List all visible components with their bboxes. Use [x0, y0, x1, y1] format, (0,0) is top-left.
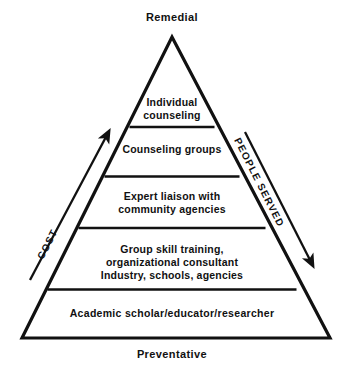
tier-label-line: Individual	[0, 96, 344, 109]
tier-label-group-skill-training: Group skill training, organizational con…	[0, 243, 344, 282]
tier-label-individual-counseling: Individual counseling	[0, 96, 344, 122]
tier-label-expert-liaison: Expert liaison with community agencies	[0, 190, 344, 216]
pyramid-diagram: Remedial Preventative Individual counsel…	[0, 0, 344, 372]
tier-label-academic-scholar: Academic scholar/educator/researcher	[0, 307, 344, 320]
tier-label-line: organizational consultant	[0, 256, 344, 269]
pyramid-outline	[22, 37, 330, 338]
tier-label-line: Academic scholar/educator/researcher	[0, 307, 344, 320]
tier-label-line: Expert liaison with	[0, 190, 344, 203]
tier-label-line: counseling	[0, 109, 344, 122]
base-label-preventative: Preventative	[0, 348, 344, 360]
apex-label-remedial: Remedial	[0, 11, 344, 23]
tier-label-line: Counseling groups	[0, 143, 344, 156]
tier-label-counseling-groups: Counseling groups	[0, 143, 344, 156]
tier-label-line: Industry, schools, agencies	[0, 269, 344, 282]
tier-label-line: community agencies	[0, 203, 344, 216]
